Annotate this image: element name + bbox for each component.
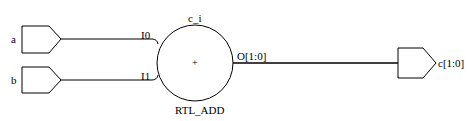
pin-label-i0: I0 — [141, 29, 150, 41]
schematic-drawing — [0, 0, 469, 121]
instance-name-label: c_i — [188, 12, 201, 24]
input-port-a[interactable] — [22, 26, 61, 53]
input-label-a: a — [11, 33, 16, 45]
output-label-c: c[1:0] — [438, 57, 464, 69]
schematic-canvas: a b I0 I1 c_i + RTL_ADD O[1:0] c[1:0] — [0, 0, 469, 121]
pin-label-i1: I1 — [141, 70, 150, 82]
output-port-c[interactable] — [398, 48, 436, 78]
adder-symbol: + — [192, 57, 198, 69]
input-port-b[interactable] — [22, 67, 61, 93]
input-label-b: b — [11, 74, 17, 86]
cell-type-label: RTL_ADD — [175, 104, 224, 116]
pin-label-out: O[1:0] — [237, 50, 266, 62]
